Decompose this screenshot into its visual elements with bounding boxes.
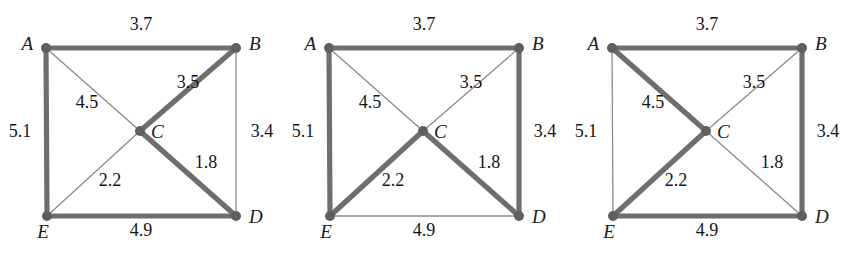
vertex-dot-a	[607, 43, 617, 53]
edge-weight-bc: 3.5	[460, 72, 483, 92]
edge-weight-ac: 4.5	[76, 92, 99, 112]
vertex-dot-c	[701, 126, 711, 136]
vertex-label-b: B	[249, 33, 261, 54]
edge-CD	[140, 131, 236, 216]
edge-AE	[46, 48, 47, 216]
vertex-dot-d	[231, 211, 241, 221]
edge-CE	[330, 131, 423, 216]
vertex-dot-b	[514, 43, 524, 53]
vertex-label-d: D	[248, 206, 263, 227]
vertex-dot-d	[514, 211, 524, 221]
graph-panel-1: ABCDE3.75.14.53.53.41.82.24.9	[0, 0, 283, 263]
vertex-label-e: E	[36, 221, 49, 242]
vertex-label-b: B	[815, 33, 827, 54]
vertex-dot-d	[797, 211, 807, 221]
figure-root: ABCDE3.75.14.53.53.41.82.24.9 ABCDE3.75.…	[0, 0, 849, 263]
vertex-dot-b	[231, 43, 241, 53]
edge-weight-ab: 3.7	[696, 14, 719, 34]
edge-AC	[46, 48, 140, 131]
edge-AC	[329, 48, 423, 131]
vertex-label-c: C	[717, 121, 730, 142]
edge-weight-ed: 4.9	[696, 220, 719, 240]
vertex-label-a: A	[302, 33, 316, 54]
edge-weight-ac: 4.5	[642, 92, 665, 112]
edge-CE	[613, 131, 706, 216]
edge-weight-ab: 3.7	[130, 14, 153, 34]
edge-CE	[47, 131, 140, 216]
vertex-label-c: C	[434, 121, 447, 142]
vertex-label-c: C	[151, 121, 164, 142]
graph-svg-1: ABCDE3.75.14.53.53.41.82.24.9	[0, 0, 283, 263]
vertex-dot-c	[135, 126, 145, 136]
vertex-label-a: A	[585, 33, 599, 54]
edge-CD	[423, 131, 519, 216]
vertex-label-e: E	[319, 221, 332, 242]
edge-weight-ae: 5.1	[575, 121, 598, 141]
vertex-dot-c	[418, 126, 428, 136]
edge-weight-ab: 3.7	[413, 14, 436, 34]
vertex-label-b: B	[532, 33, 544, 54]
graph-svg-3: ABCDE3.75.14.53.53.41.82.24.9	[566, 0, 849, 263]
vertex-label-e: E	[602, 221, 615, 242]
vertex-dot-a	[41, 43, 51, 53]
edge-weight-bc: 3.5	[177, 72, 200, 92]
edge-CD	[706, 131, 802, 216]
vertex-dot-a	[324, 43, 334, 53]
graph-panel-2: ABCDE3.75.14.53.53.41.82.24.9	[283, 0, 566, 263]
edge-weight-cd: 1.8	[761, 152, 784, 172]
vertex-dot-e	[42, 211, 52, 221]
edge-weight-ae: 5.1	[9, 121, 32, 141]
edge-weight-ce: 2.2	[99, 170, 122, 190]
edge-weight-bd: 3.4	[534, 121, 557, 141]
edge-weight-bd: 3.4	[817, 121, 840, 141]
vertex-dot-e	[325, 211, 335, 221]
edge-weight-cd: 1.8	[478, 152, 501, 172]
vertex-label-d: D	[531, 206, 546, 227]
vertex-dot-b	[797, 43, 807, 53]
edge-weight-ac: 4.5	[359, 92, 382, 112]
graph-panel-3: ABCDE3.75.14.53.53.41.82.24.9	[566, 0, 849, 263]
edge-weight-ed: 4.9	[130, 220, 153, 240]
vertex-dot-e	[608, 211, 618, 221]
vertex-label-a: A	[19, 33, 33, 54]
edge-AC	[612, 48, 706, 131]
edge-weight-bc: 3.5	[743, 72, 766, 92]
edge-weight-bd: 3.4	[251, 121, 274, 141]
graph-svg-2: ABCDE3.75.14.53.53.41.82.24.9	[283, 0, 566, 263]
edge-weight-cd: 1.8	[195, 152, 218, 172]
edge-weight-ae: 5.1	[292, 121, 315, 141]
edge-weight-ed: 4.9	[413, 220, 436, 240]
edge-weight-ce: 2.2	[665, 170, 688, 190]
edge-weight-ce: 2.2	[382, 170, 405, 190]
vertex-label-d: D	[814, 206, 829, 227]
edge-AE	[612, 48, 613, 216]
edge-AE	[329, 48, 330, 216]
